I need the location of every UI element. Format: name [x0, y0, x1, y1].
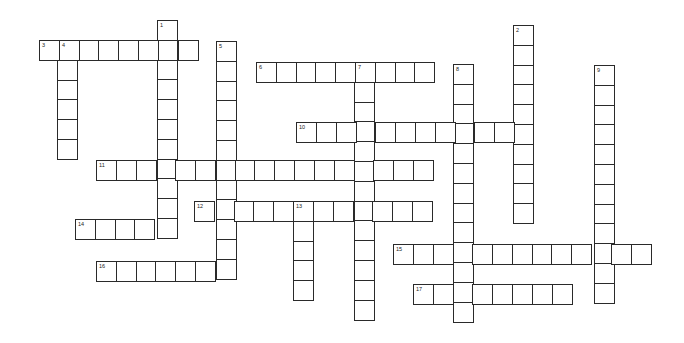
crossword-cell[interactable] — [354, 181, 375, 202]
crossword-cell[interactable] — [375, 62, 396, 83]
crossword-cell[interactable]: 5 — [216, 41, 237, 62]
crossword-cell[interactable] — [375, 122, 396, 143]
crossword-cell[interactable] — [157, 218, 178, 239]
crossword-cell[interactable] — [594, 263, 615, 284]
crossword-cell[interactable] — [294, 160, 315, 181]
crossword-cell[interactable] — [393, 160, 414, 181]
crossword-cell[interactable] — [513, 45, 534, 66]
crossword-cell[interactable]: 10 — [296, 122, 317, 143]
crossword-cell[interactable] — [354, 280, 375, 301]
crossword-cell[interactable] — [453, 123, 474, 144]
crossword-cell[interactable] — [435, 122, 456, 143]
crossword-cell[interactable] — [594, 283, 615, 304]
crossword-cell[interactable] — [373, 160, 394, 181]
crossword-cell[interactable] — [513, 65, 534, 86]
crossword-cell[interactable]: 17 — [413, 284, 434, 305]
crossword-cell[interactable] — [513, 84, 534, 105]
crossword-cell[interactable] — [175, 261, 196, 282]
crossword-cell[interactable] — [492, 244, 513, 265]
crossword-cell[interactable] — [594, 124, 615, 145]
crossword-cell[interactable] — [571, 244, 592, 265]
crossword-cell[interactable] — [254, 160, 275, 181]
crossword-cell[interactable] — [472, 244, 493, 265]
crossword-cell[interactable] — [293, 241, 314, 262]
crossword-cell[interactable] — [354, 240, 375, 261]
crossword-cell[interactable] — [513, 104, 534, 125]
crossword-cell[interactable] — [216, 100, 237, 121]
crossword-cell[interactable] — [274, 160, 295, 181]
crossword-cell[interactable] — [314, 160, 335, 181]
crossword-cell[interactable] — [335, 62, 356, 83]
crossword-cell[interactable] — [494, 122, 515, 143]
crossword-cell[interactable] — [395, 122, 416, 143]
crossword-cell[interactable] — [216, 160, 237, 181]
crossword-cell[interactable] — [157, 119, 178, 140]
crossword-cell[interactable] — [57, 99, 78, 120]
crossword-cell[interactable] — [392, 201, 413, 222]
crossword-cell[interactable] — [513, 144, 534, 165]
crossword-cell[interactable] — [134, 219, 155, 240]
crossword-cell[interactable] — [98, 40, 119, 61]
crossword-cell[interactable] — [273, 201, 294, 222]
crossword-cell[interactable] — [433, 284, 454, 305]
crossword-cell[interactable] — [195, 160, 216, 181]
crossword-cell[interactable] — [157, 79, 178, 100]
crossword-cell[interactable]: 13 — [293, 201, 314, 222]
crossword-cell[interactable] — [453, 282, 474, 303]
crossword-cell[interactable]: 11 — [96, 160, 117, 181]
crossword-cell[interactable] — [453, 104, 474, 125]
crossword-cell[interactable] — [116, 261, 137, 282]
crossword-cell[interactable] — [334, 160, 355, 181]
crossword-cell[interactable] — [336, 122, 357, 143]
crossword-cell[interactable] — [594, 164, 615, 185]
crossword-cell[interactable]: 9 — [594, 65, 615, 86]
crossword-cell[interactable] — [175, 160, 196, 181]
crossword-cell[interactable] — [57, 119, 78, 140]
crossword-cell[interactable] — [453, 242, 474, 263]
crossword-cell[interactable] — [611, 244, 632, 265]
crossword-cell[interactable] — [414, 62, 435, 83]
crossword-cell[interactable] — [118, 40, 139, 61]
crossword-cell[interactable]: 7 — [355, 62, 376, 83]
crossword-cell[interactable] — [594, 144, 615, 165]
crossword-cell[interactable] — [453, 302, 474, 323]
crossword-cell[interactable] — [138, 40, 159, 61]
crossword-cell[interactable] — [631, 244, 652, 265]
crossword-cell[interactable] — [57, 139, 78, 160]
crossword-cell[interactable] — [79, 40, 100, 61]
crossword-cell[interactable] — [57, 80, 78, 101]
crossword-cell[interactable] — [195, 261, 216, 282]
crossword-cell[interactable] — [354, 82, 375, 103]
crossword-cell[interactable]: 1 — [157, 20, 178, 41]
crossword-cell[interactable] — [594, 184, 615, 205]
crossword-cell[interactable] — [512, 244, 533, 265]
crossword-cell[interactable] — [157, 60, 178, 81]
crossword-cell[interactable] — [354, 141, 375, 162]
crossword-cell[interactable]: 8 — [453, 64, 474, 85]
crossword-cell[interactable] — [551, 244, 572, 265]
crossword-cell[interactable] — [115, 219, 136, 240]
crossword-cell[interactable] — [354, 260, 375, 281]
crossword-cell[interactable]: 14 — [75, 219, 96, 240]
crossword-cell[interactable] — [453, 262, 474, 283]
crossword-cell[interactable] — [552, 284, 573, 305]
crossword-cell[interactable]: 4 — [59, 40, 80, 61]
crossword-cell[interactable] — [354, 220, 375, 241]
crossword-cell[interactable] — [157, 40, 178, 61]
crossword-cell[interactable] — [216, 180, 237, 201]
crossword-cell[interactable]: 15 — [393, 244, 414, 265]
crossword-cell[interactable] — [155, 261, 176, 282]
crossword-cell[interactable] — [296, 62, 317, 83]
crossword-cell[interactable] — [354, 102, 375, 123]
crossword-cell[interactable] — [157, 198, 178, 219]
crossword-cell[interactable] — [276, 62, 297, 83]
crossword-cell[interactable] — [216, 81, 237, 102]
crossword-cell[interactable] — [354, 121, 375, 142]
crossword-cell[interactable] — [216, 120, 237, 141]
crossword-cell[interactable] — [253, 201, 274, 222]
crossword-cell[interactable] — [453, 163, 474, 184]
crossword-cell[interactable]: 2 — [513, 25, 534, 46]
crossword-cell[interactable] — [216, 239, 237, 260]
crossword-cell[interactable] — [513, 183, 534, 204]
crossword-cell[interactable] — [313, 201, 334, 222]
